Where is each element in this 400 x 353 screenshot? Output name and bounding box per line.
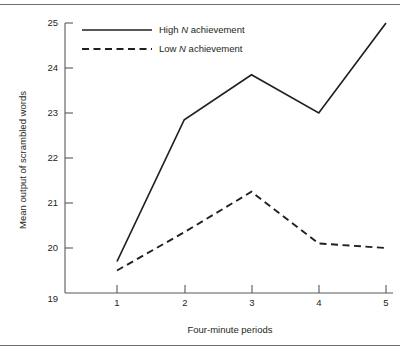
y-tick-label-22: 22 bbox=[47, 152, 58, 163]
legend-label-low-n: Low N achievement bbox=[159, 43, 243, 54]
y-tick-label-24: 24 bbox=[47, 62, 58, 73]
legend-label-high-n: High N achievement bbox=[159, 24, 245, 35]
y-tick-label-20: 20 bbox=[47, 242, 58, 253]
x-axis-title: Four-minute periods bbox=[187, 324, 272, 335]
y-axis-title: Mean output of scrambled words bbox=[17, 91, 28, 229]
y-tick-label-23: 23 bbox=[47, 107, 58, 118]
series-line-low-n-achievement bbox=[117, 192, 386, 271]
y-tick-label-19: 19 bbox=[47, 293, 58, 304]
y-tick-label-21: 21 bbox=[47, 197, 58, 208]
line-chart: Mean output of scrambled words Four-minu… bbox=[0, 0, 400, 353]
x-tick-label-5: 5 bbox=[383, 297, 388, 308]
x-tick-label-1: 1 bbox=[114, 297, 119, 308]
y-tick-label-25: 25 bbox=[47, 17, 58, 28]
figure-container: Mean output of scrambled words Four-minu… bbox=[0, 0, 400, 353]
x-tick-label-3: 3 bbox=[249, 297, 254, 308]
x-tick-label-4: 4 bbox=[316, 297, 321, 308]
legend: High N achievement Low N achievement bbox=[82, 24, 245, 54]
x-tick-label-2: 2 bbox=[182, 297, 187, 308]
series-line-high-n-achievement bbox=[117, 23, 386, 262]
